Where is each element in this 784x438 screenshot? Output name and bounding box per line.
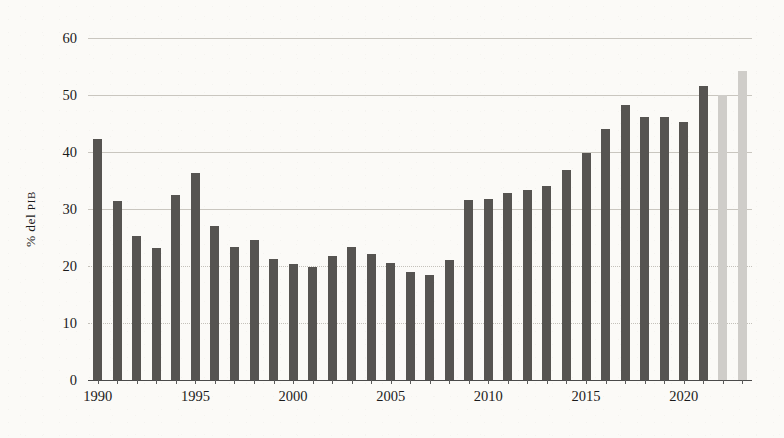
y-axis-label-smallcaps: PIB [25,191,37,210]
y-axis-tick-label-60: 60 [63,31,78,46]
x-axis-tick-mark-1990 [98,380,99,384]
bar-2016[interactable] [601,129,610,380]
x-axis-tick-label-2020: 2020 [669,389,698,404]
y-axis-tick-label-40: 40 [63,145,78,160]
bar-2018[interactable] [640,117,649,380]
y-axis-label: % del PIB [23,191,39,247]
y-axis-tick-label-50: 50 [63,88,78,103]
x-axis-tick-mark-2005 [391,380,392,384]
y-axis-label-container: % del PIB [18,0,44,438]
bar-2006[interactable] [406,272,415,380]
x-axis-tick-mark-1991 [117,380,118,384]
bar-1995[interactable] [191,173,200,380]
x-axis-tick-mark-2003 [352,380,353,384]
x-axis-tick-mark-2010 [488,380,489,384]
y-axis-label-prefix: % del [23,210,38,247]
x-axis-tick-mark-2017 [625,380,626,384]
x-axis-tick-mark-2009 [469,380,470,384]
bar-chart-figure: % del PIB 0102030405060 1990199520002005… [0,0,784,438]
x-axis-tick-mark-2021 [703,380,704,384]
x-axis-tick-mark-1993 [156,380,157,384]
bar-2009[interactable] [464,200,473,380]
x-axis-tick-mark-2004 [371,380,372,384]
bar-2014[interactable] [562,170,571,380]
x-axis-tick-label-2005: 2005 [376,389,405,404]
x-axis-tick-mark-2020 [684,380,685,384]
bar-1996[interactable] [210,226,219,380]
x-axis-tick-mark-1994 [176,380,177,384]
x-axis-tick-label-1995: 1995 [181,389,210,404]
x-axis-tick-mark-1999 [274,380,275,384]
x-axis-tick-mark-2001 [313,380,314,384]
bar-1997[interactable] [230,247,239,380]
x-axis-tick-mark-2022 [723,380,724,384]
x-axis-tick-mark-2002 [332,380,333,384]
bar-2021[interactable] [699,86,708,380]
bar-2022[interactable] [718,95,727,380]
bar-2019[interactable] [660,117,669,380]
y-axis-tick-label-30: 30 [63,202,78,217]
bar-2002[interactable] [328,256,337,380]
x-axis-tick-label-2015: 2015 [572,389,601,404]
y-axis-tick-label-10: 10 [63,316,78,331]
x-axis-tick-mark-2014 [566,380,567,384]
bar-1998[interactable] [250,240,259,380]
bar-2011[interactable] [503,193,512,380]
bar-1990[interactable] [93,139,102,380]
bar-2010[interactable] [484,199,493,380]
bar-2022[interactable] [738,71,747,381]
x-axis-tick-mark-2011 [508,380,509,384]
bar-1999[interactable] [269,259,278,380]
x-axis-tick-label-1990: 1990 [83,389,112,404]
x-axis-tick-mark-1995 [195,380,196,384]
bars-group [88,38,752,380]
x-axis-tick-mark-2018 [645,380,646,384]
x-axis-tick-mark-2007 [430,380,431,384]
bar-2020[interactable] [679,122,688,380]
bar-2005[interactable] [386,263,395,380]
x-axis-tick-mark-1998 [254,380,255,384]
bar-2017[interactable] [621,105,630,380]
x-axis-tick-mark-2015 [586,380,587,384]
x-axis-tick-mark-2013 [547,380,548,384]
x-axis-tick-mark-2019 [664,380,665,384]
bar-1994[interactable] [171,195,180,380]
bar-2008[interactable] [445,260,454,380]
bar-2001[interactable] [308,267,317,380]
bar-2007[interactable] [425,275,434,380]
bar-2000[interactable] [289,264,298,380]
x-axis-tick-mark-2006 [410,380,411,384]
x-axis-tick-mark-2000 [293,380,294,384]
plot-area: 0102030405060 19901995200020052010201520… [88,38,752,380]
x-axis-tick-label-2000: 2000 [279,389,308,404]
x-axis-tick-mark-2016 [606,380,607,384]
bar-2003[interactable] [347,247,356,380]
x-axis-tick-mark-2022 [742,380,743,384]
x-axis-tick-label-2010: 2010 [474,389,503,404]
x-axis-tick-mark-2012 [527,380,528,384]
x-axis-tick-mark-1996 [215,380,216,384]
bar-2012[interactable] [523,190,532,380]
bar-1993[interactable] [152,248,161,380]
bar-2004[interactable] [367,254,376,380]
x-axis-tick-mark-1992 [137,380,138,384]
bar-1991[interactable] [113,201,122,380]
bar-1992[interactable] [132,236,141,380]
bar-2013[interactable] [542,186,551,380]
y-axis-tick-label-0: 0 [70,373,77,388]
gridline-0 [88,380,752,381]
x-axis-tick-mark-1997 [234,380,235,384]
y-axis-tick-label-20: 20 [63,259,78,274]
bar-2015[interactable] [582,153,591,380]
x-axis-tick-mark-2008 [449,380,450,384]
